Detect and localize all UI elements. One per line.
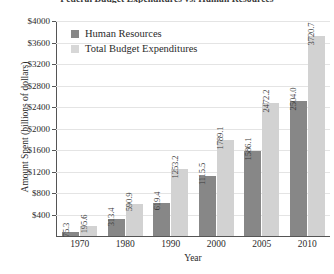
chart-legend: Human Resources Total Budget Expenditure… <box>71 28 197 54</box>
y-axis-tick <box>52 43 56 44</box>
y-axis-tick <box>52 107 56 108</box>
bar: 195.6 <box>80 226 97 237</box>
y-axis-tick <box>52 21 56 22</box>
x-axis-tick-label: 1970 <box>57 239 103 249</box>
bar-value-label: 619.4 <box>152 191 162 210</box>
x-axis-tick-label: 1980 <box>103 239 149 249</box>
legend-label: Total Budget Expenditures <box>85 43 197 54</box>
bar: 1253.2 <box>171 169 188 236</box>
y-axis-tick <box>52 150 56 151</box>
bar-value-label: 1789.1 <box>215 126 225 149</box>
y-axis-tick-label: $3600 <box>28 38 51 48</box>
x-axis-tick-label: 2000 <box>194 239 240 249</box>
bar-value-label: 313.4 <box>106 208 116 227</box>
legend-label: Human Resources <box>85 28 162 39</box>
y-axis-tick-label: $400 <box>32 210 50 220</box>
x-axis-tick-labels: 197019801990200020052010 <box>57 239 330 249</box>
y-axis-tick-label: $2800 <box>28 81 51 91</box>
bar-value-label: 2504.0 <box>288 88 298 111</box>
bar: 2472.2 <box>262 103 279 236</box>
x-axis-line <box>56 236 330 237</box>
y-axis-tick-label: $1600 <box>28 145 51 155</box>
x-axis-title: Year <box>56 253 330 263</box>
bar-value-label: 1253.2 <box>170 155 180 178</box>
bar-value-label: 2472.2 <box>261 90 271 113</box>
y-axis-tick <box>52 64 56 65</box>
legend-item-human-resources: Human Resources <box>71 28 197 39</box>
bar-value-label: 195.6 <box>79 214 89 233</box>
y-axis-tick-label: $2400 <box>28 102 51 112</box>
bar: 1115.5 <box>199 176 216 236</box>
y-axis-tick-label: $1200 <box>28 167 51 177</box>
y-axis-tick <box>52 215 56 216</box>
bar: 313.4 <box>108 219 125 236</box>
y-axis-tick <box>52 193 56 194</box>
bar-group: 2504.03720.7 <box>285 21 331 236</box>
bar: 75.3 <box>62 232 79 236</box>
y-axis-tick-label: $800 <box>32 188 50 198</box>
y-axis-tick <box>52 172 56 173</box>
bar-group: 1115.51789.1 <box>194 21 240 236</box>
bar: 2504.0 <box>290 101 307 236</box>
y-axis-tick <box>52 129 56 130</box>
y-axis-tick-label: $4000 <box>28 16 51 26</box>
bar-value-label: 1115.5 <box>197 163 207 185</box>
y-axis-tick-label: $3200 <box>28 59 51 69</box>
bar-value-label: 75.3 <box>61 223 71 237</box>
y-axis-tick-label: $2000 <box>28 124 51 134</box>
legend-item-total-budget-expenditures: Total Budget Expenditures <box>71 43 197 54</box>
bar-group: 1586.12472.2 <box>239 21 285 236</box>
x-axis-tick-label: 2010 <box>285 239 331 249</box>
y-axis-tick <box>52 86 56 87</box>
bar-value-label: 590.9 <box>124 193 134 212</box>
bar: 1586.1 <box>244 151 261 236</box>
bar: 619.4 <box>153 203 170 236</box>
bar-value-label: 3720.7 <box>306 23 316 46</box>
bar: 1789.1 <box>217 140 234 236</box>
chart-title: Federal Budget Expenditures vs. Human Re… <box>0 0 334 3</box>
bar: 3720.7 <box>308 36 325 236</box>
legend-swatch-icon <box>71 45 79 53</box>
x-axis-tick-label: 1990 <box>148 239 194 249</box>
bar-chart: Federal Budget Expenditures vs. Human Re… <box>0 0 334 274</box>
x-axis-tick-label: 2005 <box>239 239 285 249</box>
legend-swatch-icon <box>71 30 79 38</box>
bar-value-label: 1586.1 <box>243 137 253 160</box>
bar: 590.9 <box>126 204 143 236</box>
